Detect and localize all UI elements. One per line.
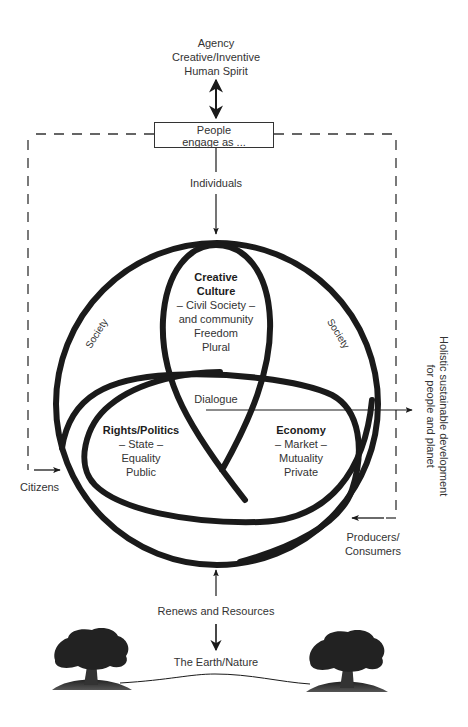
outcome-line: for people and planet xyxy=(424,336,437,496)
producers-consumers-label: Producers/ Consumers xyxy=(338,530,408,558)
earth-label: The Earth/Nature xyxy=(156,655,276,669)
renews-label: Renews and Resources xyxy=(146,604,286,618)
economy-title: Economy xyxy=(246,423,356,437)
agency-line: Agency xyxy=(156,36,276,50)
individuals-label: Individuals xyxy=(166,176,266,190)
people-engage-box: People engage as ... xyxy=(154,122,274,148)
engage-line: engage as ... xyxy=(155,136,273,148)
ground-line xyxy=(120,674,310,684)
rights-line: Equality xyxy=(86,451,196,465)
agency-label: Agency Creative/Inventive Human Spirit xyxy=(156,36,276,78)
outcome-line: Holistic sustainable development xyxy=(437,336,450,496)
rights-line: – State – xyxy=(86,437,196,451)
producers-line: Consumers xyxy=(338,544,408,558)
culture-sector-label: Creative Culture – Civil Society – and c… xyxy=(166,270,266,354)
agency-line: Creative/Inventive xyxy=(156,50,276,64)
engage-line: People xyxy=(155,124,273,136)
culture-line: and community xyxy=(166,312,266,326)
economy-line: Mutuality xyxy=(246,451,356,465)
culture-title: Culture xyxy=(166,284,266,298)
culture-line: Plural xyxy=(166,340,266,354)
economy-line: – Market – xyxy=(246,437,356,451)
citizens-label: Citizens xyxy=(20,480,70,494)
rights-sector-label: Rights/Politics – State – Equality Publi… xyxy=(86,423,196,479)
outcome-label: Holistic sustainable development for peo… xyxy=(424,336,450,496)
tree-left-icon xyxy=(52,628,132,690)
rights-title: Rights/Politics xyxy=(86,423,196,437)
dialogue-label: Dialogue xyxy=(186,392,246,406)
culture-title: Creative xyxy=(166,270,266,284)
tree-right-icon xyxy=(306,630,388,692)
economy-line: Private xyxy=(246,465,356,479)
rights-line: Public xyxy=(86,465,196,479)
culture-line: – Civil Society – xyxy=(166,298,266,312)
culture-line: Freedom xyxy=(166,326,266,340)
economy-sector-label: Economy – Market – Mutuality Private xyxy=(246,423,356,479)
producers-line: Producers/ xyxy=(338,530,408,544)
agency-line: Human Spirit xyxy=(156,64,276,78)
